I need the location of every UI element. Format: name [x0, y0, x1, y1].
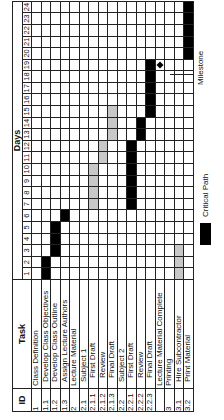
task-name: First Draft	[89, 280, 99, 389]
grid-cell	[70, 152, 80, 164]
grid-cell	[79, 268, 89, 280]
critical-bar-cell	[127, 175, 137, 187]
grid-cell	[127, 36, 137, 48]
grid-cell	[41, 233, 51, 245]
grid-cell	[41, 198, 51, 210]
grid-cell	[89, 222, 99, 234]
grid-cell	[32, 187, 42, 199]
grid-cell	[98, 233, 108, 245]
grid-cell	[79, 117, 89, 129]
grid-cell	[108, 210, 118, 222]
grid-cell	[70, 187, 80, 199]
grid-cell	[155, 1, 165, 13]
task-id: 1.1	[41, 389, 51, 412]
task-id: 2.1.3	[108, 389, 118, 412]
grid-cell	[89, 48, 99, 60]
grid-cell	[79, 59, 89, 71]
grid-cell	[51, 1, 61, 13]
grid-cell	[60, 233, 70, 245]
grid-cell	[60, 82, 70, 94]
task-name: Printing	[165, 280, 175, 389]
day-label: 6	[22, 210, 32, 222]
grid-cell	[136, 164, 146, 176]
task-name: Print Material	[184, 280, 194, 389]
grid-cell	[32, 106, 42, 118]
grid-cell	[174, 71, 184, 83]
task-id: 2.2.2	[136, 389, 146, 412]
grid-cell	[41, 245, 51, 257]
grid-cell	[146, 198, 156, 210]
critical-bar-cell	[184, 13, 194, 25]
critical-bar-cell	[41, 268, 51, 280]
grid-cell	[51, 187, 61, 199]
critical-bar-cell	[127, 152, 137, 164]
grid-cell	[32, 82, 42, 94]
grid-cell	[117, 140, 127, 152]
task-bar-cell	[108, 117, 118, 129]
day-label: 22	[22, 24, 32, 36]
grid-cell	[89, 106, 99, 118]
grid-cell	[127, 24, 137, 36]
grid-cell	[98, 210, 108, 222]
grid-cell	[146, 140, 156, 152]
grid-cell	[127, 106, 137, 118]
task-row: 1.1Develop Class Objectives	[41, 1, 51, 411]
task-row: Lecture Material Complete	[155, 1, 165, 411]
grid-cell	[165, 245, 175, 257]
grid-cell	[174, 59, 184, 71]
task-row: 2.1Subject 1	[79, 1, 89, 411]
grid-cell	[60, 59, 70, 71]
critical-bar-cell	[184, 24, 194, 36]
task-name: Class Definition	[32, 280, 42, 389]
grid-cell	[60, 164, 70, 176]
grid-cell	[51, 129, 61, 141]
grid-cell	[136, 59, 146, 71]
task-id: 2.2.3	[146, 389, 156, 412]
grid-cell	[98, 13, 108, 25]
grid-cell	[155, 129, 165, 141]
grid-cell	[89, 129, 99, 141]
task-name: First Draft	[127, 280, 137, 389]
grid-cell	[117, 59, 127, 71]
task-bar-cell	[98, 140, 108, 152]
grid-cell	[155, 24, 165, 36]
grid-cell	[136, 198, 146, 210]
gantt-chart: ID Task Days 123456789101112131415161718…	[0, 0, 224, 420]
grid-cell	[155, 36, 165, 48]
grid-cell	[51, 164, 61, 176]
grid-cell	[79, 152, 89, 164]
critical-bar-cell	[60, 210, 70, 222]
grid-cell	[174, 117, 184, 129]
grid-cell	[117, 129, 127, 141]
grid-cell	[98, 24, 108, 36]
grid-cell	[32, 140, 42, 152]
grid-cell	[165, 152, 175, 164]
grid-cell	[184, 106, 194, 118]
grid-cell	[60, 222, 70, 234]
task-bar-cell	[174, 245, 184, 257]
grid-cell	[127, 129, 137, 141]
grid-cell	[89, 152, 99, 164]
task-row: 2.1.2Review	[98, 1, 108, 411]
grid-cell	[32, 36, 42, 48]
grid-cell	[108, 94, 118, 106]
grid-cell	[89, 256, 99, 268]
grid-cell	[60, 175, 70, 187]
day-label: 5	[22, 222, 32, 234]
task-name: Review	[136, 280, 146, 389]
grid-cell	[98, 198, 108, 210]
grid-cell	[117, 94, 127, 106]
grid-cell	[60, 140, 70, 152]
grid-cell	[174, 24, 184, 36]
critical-bar-cell	[127, 164, 137, 176]
grid-cell	[146, 117, 156, 129]
grid-cell	[184, 187, 194, 199]
task-bar-cell	[174, 256, 184, 268]
grid-cell	[79, 36, 89, 48]
grid-cell	[41, 129, 51, 141]
critical-bar-cell	[184, 36, 194, 48]
grid-cell	[60, 152, 70, 164]
grid-cell	[184, 268, 194, 280]
grid-cell	[108, 187, 118, 199]
grid-cell	[184, 222, 194, 234]
